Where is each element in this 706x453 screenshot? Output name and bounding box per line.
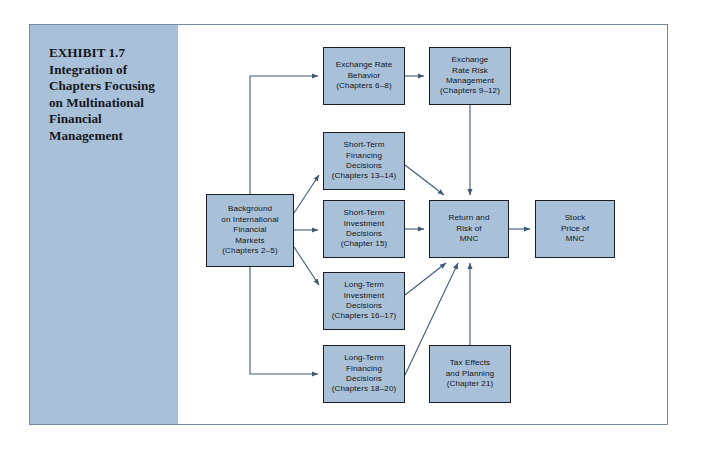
node-long-term-financing[interactable]: Long-TermFinancingDecisions(Chapters 18–… [323, 345, 405, 403]
node-label-line: Management [446, 76, 494, 86]
node-return-risk-mnc[interactable]: Return andRisk ofMNC [429, 200, 509, 258]
node-label-line: Exchange [452, 55, 489, 65]
node-label-line: Exchange Rate [336, 60, 393, 70]
node-label-line: Price of [561, 224, 589, 234]
edge-background-to-long-term-investment [294, 247, 319, 285]
exhibit-frame: EXHIBIT 1.7Integration ofChapters Focusi… [29, 24, 668, 425]
node-label-line: Markets [235, 236, 264, 246]
edge-background-to-exchange-rate-behavior [250, 76, 318, 194]
node-label-line: Background [228, 204, 272, 214]
node-label-line: (Chapter 15) [341, 239, 388, 249]
node-label-line: Financing [346, 151, 382, 161]
node-label-line: (Chapters 13–14) [332, 171, 397, 181]
node-label-line: MNC [566, 234, 585, 244]
node-short-term-investment[interactable]: Short-TermInvestmentDecisions(Chapter 15… [323, 200, 405, 258]
node-label-line: Short-Term [343, 140, 384, 150]
node-stock-price-mnc[interactable]: StockPrice ofMNC [535, 200, 615, 258]
node-label-line: (Chapters 6–8) [336, 81, 391, 91]
node-label-line: MNC [460, 234, 479, 244]
node-label-line: Decisions [346, 301, 382, 311]
node-label-line: Investment [344, 291, 385, 301]
node-label-line: (Chapter 21) [447, 379, 494, 389]
node-label-line: Rate Risk [452, 66, 488, 76]
node-label-line: Financial [233, 225, 266, 235]
node-label-line: Return and [448, 213, 489, 223]
node-long-term-investment[interactable]: Long-TermInvestmentDecisions(Chapters 16… [323, 272, 405, 330]
node-label-line: Stock [565, 213, 586, 223]
node-label-line: Financing [346, 364, 382, 374]
node-label-line: (Chapters 2–5) [222, 246, 277, 256]
node-short-term-financing[interactable]: Short-TermFinancingDecisions(Chapters 13… [323, 132, 405, 190]
node-label-line: Long-Term [344, 280, 384, 290]
node-exchange-rate-risk-management[interactable]: ExchangeRate RiskManagement(Chapters 9–1… [429, 47, 511, 105]
node-label-line: (Chapters 16–17) [332, 311, 397, 321]
node-label-line: Long-Term [344, 353, 384, 363]
edge-background-to-long-term-financing [250, 267, 318, 374]
edge-short-term-financing-to-return-risk [405, 165, 444, 195]
diagram-canvas: Backgroundon InternationalFinancialMarke… [30, 25, 669, 426]
edge-long-term-investment-to-return-risk [405, 263, 446, 295]
node-label-line: Behavior [348, 71, 381, 81]
node-label-line: and Planning [446, 369, 494, 379]
node-tax-effects[interactable]: Tax Effectsand Planning(Chapter 21) [429, 345, 511, 403]
node-label-line: (Chapters 9–12) [440, 86, 500, 96]
node-label-line: Decisions [346, 374, 382, 384]
node-label-line: Short-Term [343, 208, 384, 218]
edge-background-to-short-term-financing [294, 175, 319, 213]
node-label-line: Decisions [346, 229, 382, 239]
node-background[interactable]: Backgroundon InternationalFinancialMarke… [206, 194, 294, 267]
node-label-line: on International [221, 215, 278, 225]
node-label-line: (Chapters 18–20) [332, 384, 397, 394]
node-exchange-rate-behavior[interactable]: Exchange RateBehavior(Chapters 6–8) [323, 47, 405, 105]
node-label-line: Tax Effects [450, 358, 491, 368]
node-label-line: Investment [344, 219, 385, 229]
node-label-line: Decisions [346, 161, 382, 171]
node-label-line: Risk of [456, 224, 481, 234]
